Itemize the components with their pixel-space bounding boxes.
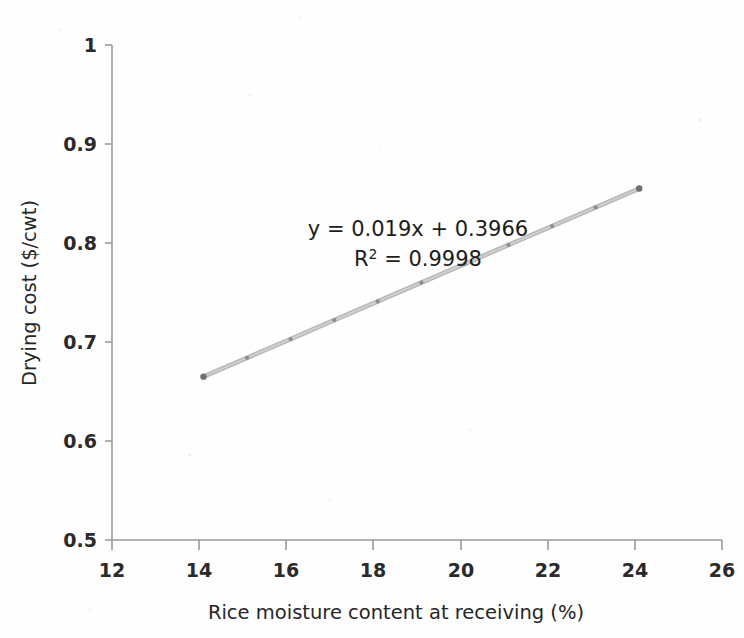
- x-tick-label-2: 16: [273, 559, 299, 581]
- data-point-marker: [376, 299, 380, 303]
- x-axis-title: Rice moisture content at receiving (%): [208, 601, 584, 624]
- y-axis-title: Drying cost ($/cwt): [18, 200, 41, 386]
- data-point-marker: [200, 373, 206, 379]
- x-tick-label-3: 18: [360, 559, 386, 581]
- data-point-marker: [289, 337, 293, 341]
- chart-page: 0.5 0.6 0.7 0.8 0.9 1 12 14 16 18 20 22 …: [0, 0, 744, 638]
- drying-cost-scatter-chart: 0.5 0.6 0.7 0.8 0.9 1 12 14 16 18 20 22 …: [0, 0, 744, 638]
- regression-equation-line: y = 0.019x + 0.3966: [308, 217, 528, 241]
- y-tick-label-2: 0.7: [63, 331, 97, 353]
- r-squared-prefix: R: [354, 247, 369, 271]
- x-tick-label-4: 20: [448, 559, 474, 581]
- r-squared-value: = 0.9998: [378, 247, 482, 271]
- data-point-marker: [594, 205, 598, 209]
- x-tick-label-0: 12: [99, 559, 125, 581]
- y-tick-label-4: 0.9: [63, 133, 97, 155]
- data-point-marker: [506, 243, 510, 247]
- r-squared-superscript: 2: [369, 246, 378, 262]
- data-point-marker: [332, 318, 336, 322]
- data-point-marker: [419, 281, 423, 285]
- x-tick-label-7: 26: [709, 559, 735, 581]
- y-tick-label-3: 0.8: [63, 232, 97, 254]
- data-point-marker: [636, 185, 642, 191]
- data-point-marker: [550, 224, 554, 228]
- x-tick-label-5: 22: [535, 559, 561, 581]
- y-tick-label-5: 1: [84, 34, 97, 56]
- y-tick-label-0: 0.5: [63, 529, 97, 551]
- x-tick-label-1: 14: [186, 559, 212, 581]
- x-tick-label-6: 24: [622, 559, 648, 581]
- y-tick-label-1: 0.6: [63, 430, 97, 452]
- data-point-marker: [245, 356, 249, 360]
